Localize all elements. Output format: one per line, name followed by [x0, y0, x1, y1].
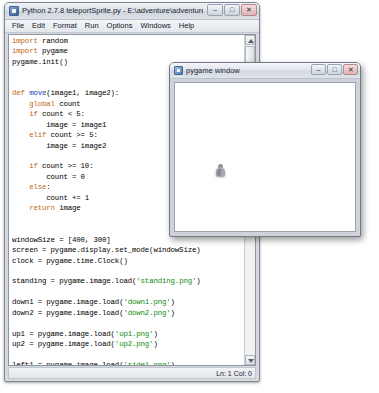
line-column-indicator: Ln: 1 Col: 0: [216, 368, 252, 379]
menu-item-run[interactable]: Run: [81, 20, 103, 32]
character-sprite: [215, 164, 226, 178]
menu-item-help[interactable]: Help: [175, 20, 198, 32]
pygame-titlebar[interactable]: pygame window – □ ✕: [170, 63, 360, 79]
idle-titlebar[interactable]: Python 2.7.8 teleportSprite.py - E:\adve…: [5, 3, 259, 20]
sprite-shading: [217, 169, 221, 176]
close-button[interactable]: ✕: [241, 4, 257, 16]
menu-item-options[interactable]: Options: [103, 20, 137, 32]
menu-item-format[interactable]: Format: [49, 20, 81, 32]
pygame-window-title: pygame window: [186, 65, 304, 76]
maximize-button[interactable]: □: [224, 4, 240, 16]
menu-item-windows[interactable]: Windows: [136, 20, 174, 32]
pygame-window-icon: [174, 66, 183, 75]
idle-window-controls[interactable]: – □ ✕: [207, 4, 257, 16]
idle-window-title: Python 2.7.8 teleportSprite.py - E:\adve…: [22, 5, 203, 16]
pygame-maximize-button[interactable]: □: [327, 64, 342, 75]
scroll-down-arrow-icon[interactable]: [245, 355, 255, 365]
scroll-up-arrow-icon[interactable]: [245, 35, 255, 45]
minimize-button[interactable]: –: [207, 4, 223, 16]
menu-item-file[interactable]: File: [8, 20, 28, 32]
pygame-window-controls[interactable]: – □ ✕: [311, 64, 358, 75]
python-idle-icon: [9, 6, 19, 16]
pygame-close-button[interactable]: ✕: [343, 64, 358, 75]
pygame-canvas[interactable]: [174, 82, 356, 232]
pygame-window[interactable]: pygame window – □ ✕: [169, 62, 361, 237]
menu-item-edit[interactable]: Edit: [28, 20, 49, 32]
idle-menubar[interactable]: File Edit Format Run Options Windows Hel…: [5, 20, 259, 33]
pygame-minimize-button[interactable]: –: [311, 64, 326, 75]
idle-statusbar: Ln: 1 Col: 0: [8, 367, 256, 379]
